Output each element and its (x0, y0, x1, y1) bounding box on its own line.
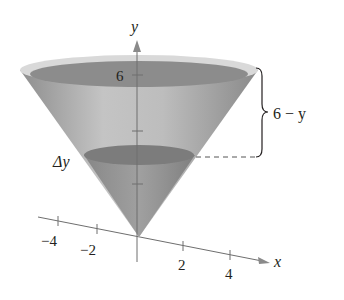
x-tick-label-2: 2 (178, 257, 186, 273)
y-axis-arrow-icon (133, 40, 141, 52)
distance-label: 6 − y (273, 105, 306, 123)
x-tick-label-neg2: −2 (80, 242, 96, 258)
x-axis-arrow-icon (258, 257, 270, 264)
x-axis (38, 216, 270, 264)
slice-label: Δy (52, 153, 70, 171)
y-tick-label-6: 6 (116, 68, 124, 84)
brace-icon (256, 68, 268, 157)
cone-diagram: y 6 6 − y Δy −4 −2 2 4 x (0, 0, 344, 300)
y-axis-label: y (129, 18, 139, 36)
x-tick-label-4: 4 (225, 266, 233, 282)
top-surface (30, 61, 248, 87)
x-tick-label-neg4: −4 (41, 233, 57, 249)
slice-disk (84, 145, 194, 165)
cone (20, 55, 258, 237)
x-axis-label: x (273, 253, 281, 270)
